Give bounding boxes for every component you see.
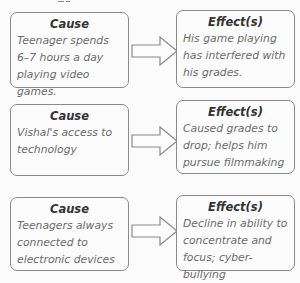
- cause-box-3: Cause Teenagers always connected to elec…: [10, 197, 129, 271]
- cause-box-1: Cause Teenager spends 6–7 hours a day pl…: [10, 12, 129, 88]
- cause-heading: Cause: [11, 202, 128, 217]
- cause-heading: Cause: [11, 17, 128, 32]
- effect-text: Decline in ability to concentrate and fo…: [177, 215, 294, 283]
- cause-text: Teenagers always connected to electronic…: [11, 217, 128, 268]
- cause-text: Teenager spends 6–7 hours a day playing …: [11, 32, 128, 100]
- effect-box-1: Effect(s) His game playing has interfere…: [176, 10, 295, 88]
- effect-box-3: Effect(s) Decline in ability to concentr…: [176, 195, 295, 271]
- cause-text: Vishal's access to technology: [11, 124, 128, 158]
- cause-box-2: Cause Vishal's access to technology: [10, 104, 129, 176]
- effect-box-2: Effect(s) Caused grades to drop; helps h…: [176, 100, 295, 174]
- effect-text: His game playing has interfered with his…: [177, 30, 294, 81]
- cropped-heading-fragment: [2, 0, 142, 2]
- arrow-right-icon: [131, 216, 179, 246]
- effect-text: Caused grades to drop; helps him pursue …: [177, 120, 294, 171]
- arrow-right-icon: [131, 126, 179, 156]
- arrow-right-icon: [131, 36, 179, 66]
- cause-heading: Cause: [11, 109, 128, 124]
- effect-heading: Effect(s): [177, 200, 294, 215]
- effect-heading: Effect(s): [177, 15, 294, 30]
- effect-heading: Effect(s): [177, 105, 294, 120]
